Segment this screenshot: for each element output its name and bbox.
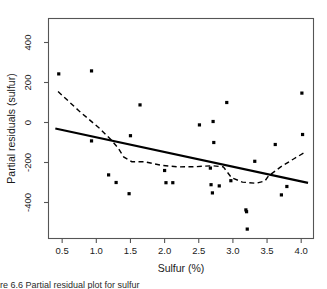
figure-caption: re 6.6 Partial residual plot for sulfur: [0, 280, 327, 289]
data-point: [171, 181, 174, 184]
data-point: [209, 167, 212, 170]
x-tick-label: 2.5: [192, 245, 205, 256]
y-axis-label: Partial residuals (sulfur): [5, 73, 17, 183]
data-point: [90, 139, 93, 142]
y-tick-label: -400: [22, 193, 33, 212]
data-point: [90, 69, 93, 72]
x-tick-label: 1.0: [90, 245, 103, 256]
data-point: [301, 133, 304, 136]
x-tick-label: 3.5: [260, 245, 273, 256]
data-point: [211, 191, 214, 194]
plot-frame: [49, 19, 314, 239]
partial-residual-plot-figure: 4002000-200-4000.51.01.52.02.53.03.54.0S…: [0, 0, 327, 289]
data-point: [245, 210, 248, 213]
data-point: [225, 101, 228, 104]
data-point: [163, 169, 166, 172]
data-point: [212, 141, 215, 144]
data-point: [274, 143, 277, 146]
x-axis-label: Sulfur (%): [158, 262, 205, 274]
x-tick-label: 0.5: [56, 245, 69, 256]
data-point: [253, 160, 256, 163]
data-point: [218, 184, 221, 187]
data-point: [212, 120, 215, 123]
y-tick-label: 0: [22, 120, 33, 125]
x-tick-label: 4.0: [295, 245, 308, 256]
regression-fit-line: [55, 129, 308, 183]
data-point: [229, 179, 232, 182]
data-point: [280, 193, 283, 196]
data-point: [107, 173, 110, 176]
data-point: [300, 92, 303, 95]
data-point: [246, 228, 249, 231]
data-point: [164, 181, 167, 184]
data-point: [138, 103, 141, 106]
data-point: [115, 181, 118, 184]
y-tick-label: 400: [22, 35, 33, 51]
x-tick-label: 2.0: [158, 245, 171, 256]
y-tick-label: -200: [22, 153, 33, 172]
x-tick-label: 3.0: [226, 245, 239, 256]
data-point: [57, 72, 60, 75]
plot-canvas: 4002000-200-4000.51.01.52.02.53.03.54.0S…: [0, 0, 327, 289]
data-point: [198, 123, 201, 126]
data-point: [209, 183, 212, 186]
data-point: [129, 134, 132, 137]
data-point: [285, 185, 288, 188]
y-tick-label: 200: [22, 75, 33, 91]
x-tick-label: 1.5: [124, 245, 137, 256]
data-point: [127, 192, 130, 195]
